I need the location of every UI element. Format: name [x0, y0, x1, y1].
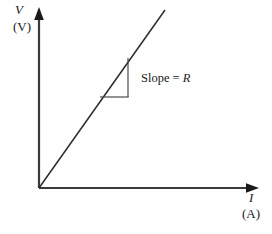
x-axis-unit-label: (A) — [242, 207, 260, 220]
slope-annotation: Slope = R — [141, 72, 190, 85]
y-axis-symbol-label: V — [15, 3, 23, 16]
x-axis-symbol-label: I — [249, 191, 253, 204]
y-axis-arrowhead — [34, 7, 44, 20]
data-line-v-equals-ir — [39, 10, 165, 188]
slope-annotation-symbol: R — [183, 71, 191, 85]
slope-annotation-text: Slope = — [141, 71, 180, 85]
y-axis-unit-label: (V) — [13, 20, 31, 33]
ohms-law-graph-figure: V (V) I (A) Slope = R — [0, 0, 272, 234]
graph-canvas — [0, 0, 272, 234]
